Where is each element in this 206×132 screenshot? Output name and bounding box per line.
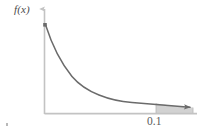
plot-canvas: [0, 0, 206, 132]
figure-container: f(x) 0.1: [0, 0, 206, 132]
curve-start-marker: [43, 23, 47, 27]
x-axis-tick-label-0.1: 0.1: [147, 116, 161, 128]
page-corner-artifact: [6, 123, 8, 126]
decay-curve: [46, 25, 191, 108]
y-axis-label: f(x): [14, 4, 30, 15]
